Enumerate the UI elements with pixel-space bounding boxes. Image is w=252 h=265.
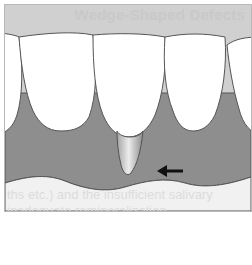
tooth-illustration bbox=[5, 5, 251, 211]
background-text-line-2: inadequate remineralization bbox=[7, 203, 167, 212]
background-title: Wedge-Shaped Defects bbox=[5, 6, 245, 23]
background-text-line-1: ths etc.) and the insufficient salivary bbox=[7, 187, 213, 202]
diagram-frame: Wedge-Shaped Defects ths etc.) and the i… bbox=[4, 4, 252, 212]
